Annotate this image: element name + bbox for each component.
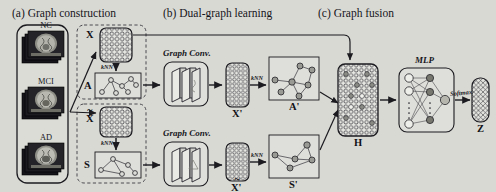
label-matrix-X-prime: X' (232, 108, 243, 119)
arrow-Sprime-to-H (320, 110, 338, 150)
mri-label-mci: MCI (27, 77, 65, 86)
arrow-Aprime-to-H (320, 92, 338, 103)
tilde-accent-X-prime: ~ (234, 177, 239, 181)
knn-label-branch-2: kNN (251, 151, 263, 158)
matrix-H (338, 64, 378, 136)
label-matrix-X-tilde-prime: ~ X' (231, 182, 242, 192)
prime-accent-S: ' (295, 179, 298, 190)
panel-title-b: (b) Dual-graph learning (163, 7, 272, 19)
mri-label-nc: NC (27, 21, 65, 30)
label-graph-A-prime: A' (289, 101, 300, 112)
label-matrix-X-tilde: ~ X (86, 113, 94, 124)
knn-label-top: kNN (101, 63, 113, 70)
mri-stack-ad (22, 143, 64, 175)
label-A-prime-base: A (289, 101, 297, 112)
graph-conv-label-1: Graph Conv. (163, 48, 211, 58)
label-graph-S-prime: S' (289, 179, 298, 190)
figure-canvas: (a) Graph construction (b) Dual-graph le… (0, 0, 496, 192)
mri-label-ad: AD (27, 133, 65, 142)
mri-stack-mci (22, 87, 64, 119)
label-X-prime-base: X (232, 108, 240, 119)
graph-conv-block-1 (164, 62, 208, 106)
matrix-X (100, 28, 132, 62)
graph-box-A-prime (269, 57, 319, 100)
matrix-X-tilde (100, 107, 132, 137)
graph-conv-block-2 (164, 142, 208, 186)
label-matrix-X: X (86, 29, 94, 40)
panel-title-c: (c) Graph fusion (318, 7, 394, 19)
graph-conv-label-2: Graph Conv. (163, 128, 211, 138)
label-matrix-H: H (354, 137, 362, 148)
matrix-Z (472, 78, 489, 122)
mlp-block (399, 68, 454, 132)
label-graph-S: S (84, 159, 90, 170)
matrix-X-prime (226, 63, 249, 107)
knn-label-bottom: kNN (101, 139, 113, 146)
mri-stack-nc (22, 31, 64, 63)
label-graph-A: A (84, 80, 92, 91)
graph-box-S-prime (269, 135, 319, 178)
graph-box-A (95, 73, 141, 98)
tilde-accent-X: ~ (87, 108, 92, 112)
prime-accent-A: ' (297, 101, 300, 112)
label-matrix-Z: Z (477, 123, 484, 134)
graph-box-S (95, 152, 141, 178)
knn-label-branch-1: kNN (251, 74, 263, 81)
panel-title-a: (a) Graph construction (12, 7, 116, 19)
arrow-mri-to-X (70, 52, 96, 112)
diagram-vector-layer (0, 0, 496, 192)
label-mlp: MLP (415, 55, 434, 65)
prime-accent-X: ' (240, 108, 243, 119)
